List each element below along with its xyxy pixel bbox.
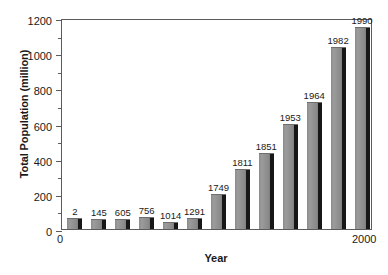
bar-label: 605 bbox=[115, 207, 131, 218]
bar-side-shading bbox=[150, 218, 154, 229]
bar-side-shading bbox=[294, 125, 298, 229]
y-tick-minor-900 bbox=[58, 73, 62, 74]
y-tick-0: 0 bbox=[56, 231, 62, 232]
x-axis-start-label: 0 bbox=[57, 233, 63, 245]
bar-side-shading bbox=[222, 195, 226, 229]
bar-1982: 1982 bbox=[331, 47, 346, 229]
bar-label: 1014 bbox=[160, 210, 181, 221]
bar-side-shading bbox=[174, 223, 178, 229]
bar-1811: 1811 bbox=[235, 169, 250, 229]
y-tick-minor-300 bbox=[58, 178, 62, 179]
bar-1851: 1851 bbox=[259, 153, 274, 229]
bar-side-shading bbox=[366, 28, 370, 229]
bar-145: 145 bbox=[91, 219, 106, 229]
bar-label: 756 bbox=[139, 205, 155, 216]
bar-605: 605 bbox=[115, 219, 130, 229]
bar-1964: 1964 bbox=[307, 102, 322, 229]
y-tick-600: 600 bbox=[56, 126, 62, 127]
bar-label: 1953 bbox=[280, 112, 301, 123]
bar-side-shading bbox=[342, 48, 346, 229]
bar-side-shading bbox=[270, 154, 274, 229]
bar-2: 2 bbox=[67, 218, 82, 229]
bar-1014: 1014 bbox=[163, 222, 178, 229]
bar-label: 1990 bbox=[351, 15, 372, 26]
bar-side-shading bbox=[318, 103, 322, 229]
bar-1749: 1749 bbox=[211, 194, 226, 229]
bar-label: 1811 bbox=[232, 157, 252, 168]
y-tick-1000: 1000 bbox=[56, 55, 62, 56]
bar-side-shading bbox=[78, 219, 82, 229]
y-tick-label: 600 bbox=[34, 121, 52, 133]
y-tick-label: 0 bbox=[46, 226, 52, 238]
bar-756: 756 bbox=[139, 217, 154, 229]
y-tick-label: 400 bbox=[34, 156, 52, 168]
bar-label: 1749 bbox=[208, 182, 229, 193]
bar-label: 1964 bbox=[304, 90, 325, 101]
y-tick-800: 800 bbox=[56, 90, 62, 91]
bar-side-shading bbox=[126, 220, 130, 229]
bar-label: 1851 bbox=[256, 141, 277, 152]
y-tick-400: 400 bbox=[56, 161, 62, 162]
y-tick-1200: 1200 bbox=[56, 20, 62, 21]
bar-label: 1982 bbox=[328, 35, 349, 46]
y-tick-label: 1000 bbox=[28, 50, 52, 62]
y-tick-label: 1200 bbox=[28, 15, 52, 27]
bar-1990: 1990 bbox=[355, 27, 370, 229]
y-tick-minor-700 bbox=[58, 108, 62, 109]
bar-side-shading bbox=[198, 219, 202, 229]
population-bar-chart: Total Population (million) 1200100080060… bbox=[0, 0, 388, 275]
bar-side-shading bbox=[246, 170, 250, 229]
caption-remnant bbox=[8, 270, 308, 273]
x-axis-title: Year bbox=[60, 252, 372, 264]
y-tick-200: 200 bbox=[56, 196, 62, 197]
y-tick-label: 200 bbox=[34, 191, 52, 203]
x-axis-end-label: 2000 bbox=[352, 233, 376, 245]
plot-area: 120010008006004002000 214560575610141291… bbox=[61, 19, 372, 230]
y-tick-label: 800 bbox=[34, 85, 52, 97]
y-tick-minor-500 bbox=[58, 143, 62, 144]
bar-label: 145 bbox=[91, 207, 107, 218]
bar-label: 2 bbox=[72, 206, 77, 217]
bar-label: 1291 bbox=[184, 206, 205, 217]
bar-1953: 1953 bbox=[283, 124, 298, 229]
y-tick-minor-100 bbox=[58, 213, 62, 214]
bar-side-shading bbox=[102, 220, 106, 229]
y-tick-minor-1100 bbox=[58, 38, 62, 39]
bar-1291: 1291 bbox=[187, 218, 202, 229]
